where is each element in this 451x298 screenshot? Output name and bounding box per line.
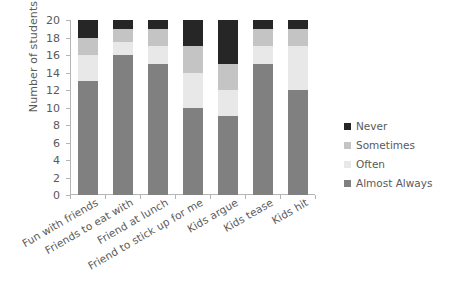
y-tick-label: 14 [46, 66, 60, 79]
bar-segment[interactable] [148, 29, 168, 47]
y-tick-label: 10 [46, 101, 60, 114]
bar-segment[interactable] [78, 81, 98, 195]
bar-segment[interactable] [218, 64, 238, 90]
bar-segment[interactable] [253, 20, 273, 29]
bar-segment[interactable] [113, 20, 133, 29]
bar-segment[interactable] [78, 38, 98, 56]
stacked-bar-chart: Number of students 02468101214161820 Fun… [0, 0, 451, 298]
y-tick-label: 2 [53, 171, 60, 184]
bar-segment[interactable] [218, 90, 238, 116]
y-axis-title: Number of students [27, 0, 40, 142]
bar-segment[interactable] [218, 116, 238, 195]
bar-segment[interactable] [288, 29, 308, 47]
bar-segment[interactable] [183, 73, 203, 108]
legend-label: Never [356, 120, 387, 132]
bar-segment[interactable] [148, 20, 168, 29]
bar-group[interactable] [218, 20, 238, 195]
bar-segment[interactable] [78, 20, 98, 38]
bar-segment[interactable] [218, 20, 238, 64]
legend-item[interactable]: Often [344, 158, 432, 170]
bar-segment[interactable] [288, 20, 308, 29]
x-axis-label: Kids hit [269, 196, 309, 226]
legend-swatch-icon [344, 161, 351, 168]
legend-item[interactable]: Never [344, 120, 432, 132]
bar-segment[interactable] [148, 64, 168, 195]
y-tick-label: 6 [53, 136, 60, 149]
bar-segment[interactable] [183, 108, 203, 196]
bar-group[interactable] [78, 20, 98, 195]
bar-segment[interactable] [113, 55, 133, 195]
chart-legend: NeverSometimesOftenAlmost Always [344, 120, 432, 189]
x-tick [315, 195, 316, 199]
x-axis-labels: Fun with friendsFriends to eat withFrien… [70, 196, 315, 296]
bar-segment[interactable] [253, 29, 273, 47]
y-tick-label: 16 [46, 49, 60, 62]
bar-segment[interactable] [78, 55, 98, 81]
y-tick-label: 12 [46, 84, 60, 97]
bar-series-container [70, 20, 315, 195]
bar-group[interactable] [288, 20, 308, 195]
bar-segment[interactable] [288, 90, 308, 195]
legend-swatch-icon [344, 180, 351, 187]
legend-item[interactable]: Sometimes [344, 139, 432, 151]
bar-segment[interactable] [113, 42, 133, 55]
bar-group[interactable] [148, 20, 168, 195]
legend-item[interactable]: Almost Always [344, 177, 432, 189]
bar-segment[interactable] [253, 46, 273, 64]
bar-segment[interactable] [113, 29, 133, 42]
legend-swatch-icon [344, 142, 351, 149]
y-tick-label: 4 [53, 154, 60, 167]
legend-label: Often [356, 158, 385, 170]
plot-area: 02468101214161820 [70, 20, 315, 195]
y-tick-label: 18 [46, 31, 60, 44]
y-tick-label: 0 [53, 189, 60, 202]
bar-segment[interactable] [183, 46, 203, 72]
legend-label: Sometimes [356, 139, 415, 151]
bar-segment[interactable] [148, 46, 168, 64]
y-tick-label: 20 [46, 14, 60, 27]
bar-segment[interactable] [183, 20, 203, 46]
bar-segment[interactable] [253, 64, 273, 195]
bar-group[interactable] [253, 20, 273, 195]
bar-group[interactable] [183, 20, 203, 195]
bar-segment[interactable] [288, 46, 308, 90]
bar-group[interactable] [113, 20, 133, 195]
legend-label: Almost Always [356, 177, 432, 189]
y-tick-label: 8 [53, 119, 60, 132]
legend-swatch-icon [344, 123, 351, 130]
